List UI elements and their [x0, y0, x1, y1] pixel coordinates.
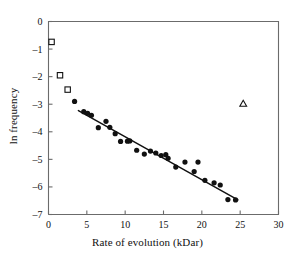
x-axis-ticks — [49, 211, 279, 215]
data-point — [107, 125, 112, 130]
data-point — [142, 152, 147, 157]
data-point — [49, 39, 54, 44]
svg-text:20: 20 — [197, 219, 207, 230]
data-point — [65, 87, 70, 92]
data-point — [192, 169, 197, 174]
data-point — [113, 131, 118, 136]
svg-text:–7: –7 — [32, 209, 43, 220]
data-point — [212, 180, 217, 185]
data-point — [173, 164, 178, 169]
data-point — [182, 160, 187, 165]
data-point — [240, 100, 247, 106]
data-point — [57, 73, 62, 78]
data-point — [153, 150, 158, 155]
data-point — [233, 197, 238, 202]
data-point — [148, 148, 153, 153]
data-point — [195, 160, 200, 165]
data-point — [166, 156, 171, 161]
plot-area: 051015202530 0–1–2–3–4–5–6–7 — [0, 0, 295, 259]
data-point — [159, 153, 164, 158]
svg-text:–3: –3 — [32, 99, 43, 110]
svg-text:10: 10 — [120, 219, 130, 230]
svg-text:–1: –1 — [32, 44, 43, 55]
svg-text:–5: –5 — [32, 154, 43, 165]
data-point — [118, 139, 123, 144]
data-point — [134, 148, 139, 153]
svg-text:0: 0 — [38, 16, 43, 27]
regression-line — [78, 111, 237, 200]
data-point — [96, 125, 101, 130]
data-point — [89, 113, 94, 118]
svg-text:15: 15 — [159, 219, 169, 230]
svg-text:5: 5 — [84, 219, 89, 230]
svg-text:25: 25 — [235, 219, 245, 230]
svg-text:0: 0 — [46, 219, 51, 230]
data-series-markers — [49, 39, 247, 202]
y-axis-title: ln frequency — [7, 56, 19, 176]
data-point — [218, 182, 223, 187]
svg-text:30: 30 — [274, 219, 284, 230]
scatter-chart-figure: 051015202530 0–1–2–3–4–5–6–7 Rate of evo… — [0, 0, 295, 259]
data-point — [127, 138, 132, 143]
data-point — [202, 178, 207, 183]
y-axis-ticks — [49, 22, 53, 215]
data-point — [103, 119, 108, 124]
svg-text:–6: –6 — [32, 181, 43, 192]
data-point — [72, 99, 77, 104]
axis-frame — [49, 22, 279, 215]
data-point — [225, 197, 230, 202]
x-axis-tick-labels: 051015202530 — [46, 219, 284, 230]
x-axis-title: Rate of evolution (kDar) — [0, 236, 295, 248]
svg-text:–4: –4 — [32, 126, 43, 137]
y-axis-tick-labels: 0–1–2–3–4–5–6–7 — [32, 16, 43, 220]
svg-text:–2: –2 — [32, 71, 43, 82]
